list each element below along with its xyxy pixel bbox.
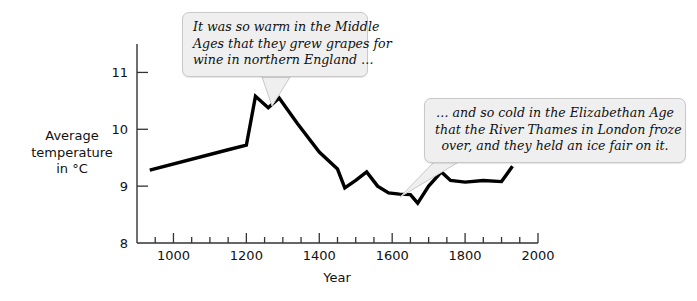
temperature-line-chart: 891011 100012001400160018002000 Year Ave… (0, 0, 697, 301)
x-tick-label: 2000 (521, 248, 554, 263)
y-axis-ticks (137, 72, 148, 186)
x-axis-title: Year (322, 270, 351, 285)
x-tick-label: 1600 (376, 248, 409, 263)
callout-1-line-3: wine in northern England … (193, 52, 357, 69)
x-tick-label: 1800 (449, 248, 482, 263)
callout-2-line-2: that the River Thames in London froze (435, 122, 675, 139)
x-tick-label: 1200 (230, 248, 263, 263)
x-axis-ticks (155, 233, 538, 243)
x-tick-label: 1000 (157, 248, 190, 263)
y-axis-title: Average temperature in °C (18, 128, 126, 178)
y-tick-label: 11 (111, 65, 128, 80)
callout-little-ice-age: … and so cold in the Elizabethan Age tha… (424, 98, 686, 163)
x-axis-tick-labels: 100012001400160018002000 (157, 248, 555, 263)
callout-2-line-3: over, and they held an ice fair on it. (435, 138, 675, 155)
y-tick-label: 9 (120, 179, 128, 194)
y-tick-label: 8 (120, 236, 128, 251)
callout-1-line-1: It was so warm in the Middle (193, 19, 357, 36)
callout-medieval-warm-period: It was so warm in the Middle Ages that t… (182, 12, 368, 77)
y-axis-title-line-2: temperature (18, 145, 126, 162)
callout-2-line-1: … and so cold in the Elizabethan Age (435, 105, 675, 122)
y-axis-title-line-3: in °C (18, 161, 126, 178)
y-axis-title-line-1: Average (18, 128, 126, 145)
callout-1-line-2: Ages that they grew grapes for (193, 36, 357, 53)
x-tick-label: 1400 (303, 248, 336, 263)
